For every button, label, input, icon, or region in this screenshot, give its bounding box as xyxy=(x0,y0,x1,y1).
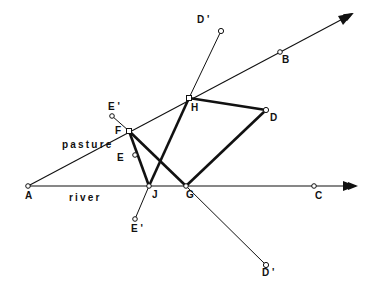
label-E: E xyxy=(117,152,124,163)
point-Eprime-bottom-icon xyxy=(133,217,138,222)
point-D-icon xyxy=(263,107,268,112)
region-label-pasture: pasture xyxy=(62,139,114,150)
label-B: B xyxy=(282,54,289,65)
point-H-icon xyxy=(187,96,192,101)
label-Dprime-bottom: D ' xyxy=(262,267,274,278)
label-F: F xyxy=(115,125,121,136)
label-D: D xyxy=(270,112,277,123)
label-H: H xyxy=(191,102,198,113)
segment-F-G xyxy=(129,131,186,186)
region-label-river: river xyxy=(69,192,102,203)
point-A-icon xyxy=(26,184,31,189)
arrowhead-pasture-icon xyxy=(338,13,353,25)
label-J: J xyxy=(152,189,158,200)
label-A: A xyxy=(25,190,32,201)
point-J-icon xyxy=(147,184,152,189)
segment-J-Eprime xyxy=(135,186,149,219)
geometry-diagram: A B C D D ' D ' E E ' E ' F G H J pastur… xyxy=(0,0,366,288)
segment-H-Dprime xyxy=(189,31,221,98)
point-E-icon xyxy=(133,153,138,158)
point-Dprime-top-icon xyxy=(218,28,223,33)
label-Eprime-bottom: E ' xyxy=(131,223,143,234)
label-Dprime-top: D ' xyxy=(197,14,209,25)
segment-G-Dprime xyxy=(186,186,266,265)
label-Eprime-top: E ' xyxy=(108,101,120,112)
segment-H-D xyxy=(189,98,266,110)
label-G: G xyxy=(186,189,194,200)
segment-D-G xyxy=(186,110,266,186)
label-C: C xyxy=(315,190,322,201)
point-Eprime-top-icon xyxy=(110,114,115,119)
point-C-icon xyxy=(312,184,317,189)
point-G-icon xyxy=(184,184,189,189)
point-F-icon xyxy=(127,129,132,134)
arrowhead-river-icon xyxy=(343,181,356,191)
